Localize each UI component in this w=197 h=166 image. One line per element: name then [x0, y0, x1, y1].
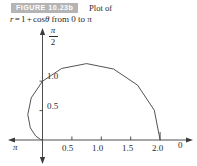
- figure-number-badge: FIGURE 10.23b: [11, 3, 78, 13]
- y-tick-label-0.5: 0.5: [47, 101, 58, 111]
- y-tick-label-1.0: 1.0: [47, 71, 58, 81]
- caption-line-2: r=1+cosθ from 0 to π: [10, 14, 92, 25]
- figure-page: FIGURE 10.23b Plot of r=1+cosθ from 0 to…: [0, 0, 197, 166]
- x-tick-label-0.5: 0.5: [62, 143, 73, 153]
- x-axis-tip-label-zero: 0: [178, 140, 183, 150]
- x-tick-label-2.0: 2.0: [152, 143, 163, 153]
- x-axis-tip-label-pi: π: [13, 142, 18, 152]
- caption-lead-text: Plot of: [89, 3, 112, 14]
- x-axis-arrow-right-icon: [186, 137, 193, 142]
- caption-equals: =: [14, 14, 21, 24]
- caption-line-1: FIGURE 10.23b Plot of: [0, 1, 197, 12]
- caption-theta: θ: [45, 14, 49, 24]
- y-axis-tip-label-pi-over-2: π 2: [46, 26, 60, 48]
- pi-over-2-denominator: 2: [46, 37, 60, 48]
- y-axis-arrow-up-icon: [40, 28, 45, 35]
- y-axis-arrow-down-icon: [40, 157, 45, 164]
- x-tick-label-1.0: 1.0: [92, 143, 103, 153]
- caption-range-text: from 0 to π: [52, 14, 92, 24]
- caption-cos: cos: [33, 14, 45, 24]
- caption-plus: +: [25, 14, 32, 24]
- x-tick-label-1.5: 1.5: [122, 143, 133, 153]
- pi-over-2-numerator: π: [46, 26, 60, 36]
- caption-variable-r: r: [10, 14, 14, 24]
- plot-area: π 2 1.0 0.5 0.5 1.0 1.5 2.0 0 π: [0, 24, 197, 166]
